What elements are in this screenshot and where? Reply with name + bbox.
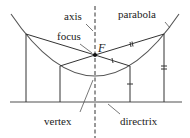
label-vertex: vertex — [44, 115, 72, 127]
segment-p2-focus — [60, 55, 95, 66]
label-focus: focus — [57, 30, 81, 42]
focus-point — [93, 53, 97, 57]
label-directrix: directrix — [120, 115, 158, 127]
segment-p3-focus — [95, 34, 164, 55]
parabola-diagram: axis focus F parabola vertex directrix — [0, 0, 190, 138]
label-focus-symbol: F — [97, 41, 106, 55]
label-axis: axis — [64, 10, 82, 22]
label-parabola: parabola — [118, 8, 156, 20]
